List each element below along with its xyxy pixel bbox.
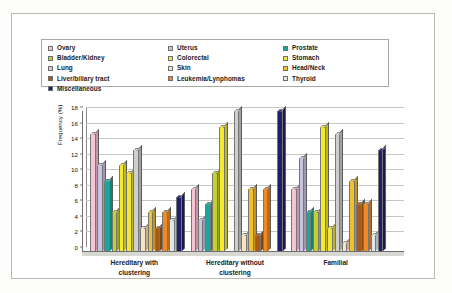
bar [363,204,369,251]
gridline [86,107,404,108]
legend-item-label: Stomach [292,53,319,63]
bar [212,173,218,251]
bar [291,189,297,251]
bar-side-face [268,184,271,251]
legend-item[interactable]: Thyroid [283,74,383,84]
legend-item-label: Prostate [292,43,318,53]
legend-item[interactable]: Miscellaneous [48,84,168,94]
bar [241,235,247,251]
bar [133,150,139,251]
bar [119,165,125,251]
x-axis-label: Familial [323,258,348,268]
legend-item-label: Skin [177,63,191,73]
bar [126,173,132,251]
axes [82,111,404,251]
bar [356,204,362,251]
bar-side-face [383,145,386,251]
legend-item[interactable]: Bladder/Kidney [48,53,168,63]
bar-side-face [239,106,242,251]
legend-item[interactable]: Head/Neck [283,63,383,73]
y-tick-label: 4 [64,212,78,219]
legend-item[interactable]: Skin [168,63,283,73]
legend-swatch-icon [283,46,288,51]
y-tick-label: 6 [64,197,78,204]
legend-item[interactable]: Liver/biliary tract [48,74,168,84]
y-tick-label: 2 [64,228,78,235]
bar [335,134,341,251]
y-tick-label: 8 [64,181,78,188]
legend-item[interactable]: Prostate [283,43,383,53]
bar-side-face [283,106,286,251]
bar [97,165,103,251]
legend-item[interactable]: Colorectal [168,53,283,63]
bar [162,212,168,251]
chart-legend: OvaryBladder/KidneyLungLiver/biliary tra… [41,39,389,87]
bar-side-face [340,129,343,251]
legend-swatch-icon [168,46,173,51]
bar [104,181,110,251]
bar [112,212,118,251]
x-axis-label: Hereditary without clustering [206,258,264,277]
bar [342,243,348,251]
legend-column-1: OvaryBladder/KidneyLungLiver/biliary tra… [48,43,168,94]
legend-item-label: Colorectal [177,53,209,63]
plot-floor [82,251,404,256]
bar [371,235,377,251]
bar-series-container [82,111,404,251]
legend-swatch-icon [168,76,173,81]
bar [169,220,175,251]
bar [248,189,254,251]
bar [255,235,261,251]
legend-column-2: UterusColorectalSkinLeukemia/Lynphomas [168,43,283,94]
bar-side-face [182,192,185,251]
bar [320,127,326,251]
y-axis-title: Frequency (%) [56,93,63,157]
y-axis-ticks: 024681012141618 [64,111,80,251]
y-tick-label: 0 [64,244,78,251]
bar-side-face [225,122,228,251]
bar [176,197,182,251]
plot-area: Frequency (%) 024681012141618 Hereditary… [58,111,410,271]
legend-item-label: Thyroid [292,74,316,84]
legend-item-label: Ovary [57,43,75,53]
y-tick-label: 10 [64,166,78,173]
bar [198,220,204,251]
legend-item-label: Uterus [177,43,198,53]
bar [155,228,161,251]
legend-item-label: Liver/biliary tract [57,74,109,84]
y-tick-label: 16 [64,119,78,126]
legend-swatch-icon [168,56,173,61]
bar [277,111,283,251]
x-axis-labels: Hereditary with clusteringHereditary wit… [82,258,404,288]
bar [234,111,240,251]
legend-item[interactable]: Lung [48,63,168,73]
legend-swatch-icon [283,66,288,71]
legend-column-3: ProstateStomachHead/NeckThyroid [283,43,383,94]
legend-item[interactable]: Uterus [168,43,283,53]
bar [205,204,211,251]
y-tick-mark [80,107,83,108]
legend-item[interactable]: Ovary [48,43,168,53]
bar [191,189,197,251]
bar [378,150,384,251]
bar [299,158,305,251]
bar [148,212,154,251]
bar [306,212,312,251]
bar [263,189,269,251]
bar [313,212,319,251]
legend-item-label: Bladder/Kidney [57,53,105,63]
legend-item[interactable]: Leukemia/Lynphomas [168,74,283,84]
bar [140,228,146,251]
legend-item-label: Miscellaneous [57,84,101,94]
legend-item-label: Leukemia/Lynphomas [177,74,245,84]
bar [349,181,355,251]
legend-swatch-icon [283,56,288,61]
legend-swatch-icon [283,76,288,81]
legend-swatch-icon [168,66,173,71]
legend-item-label: Lung [57,63,73,73]
y-tick-label: 14 [64,135,78,142]
legend-swatch-icon [48,66,53,71]
figure-frame: OvaryBladder/KidneyLungLiver/biliary tra… [11,13,435,279]
legend-item-label: Head/Neck [292,63,325,73]
legend-item[interactable]: Stomach [283,53,383,63]
